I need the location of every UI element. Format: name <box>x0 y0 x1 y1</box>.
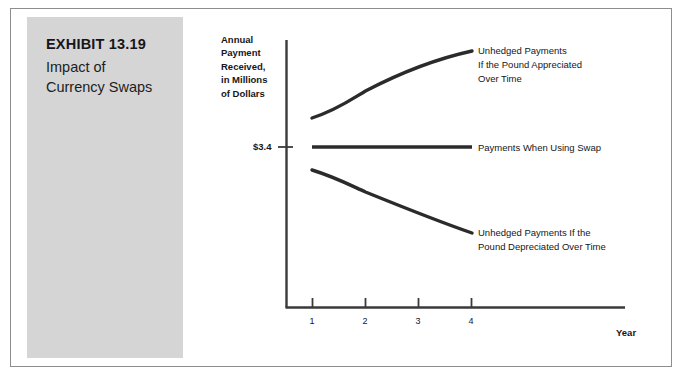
y-axis-title-line-3: Received, <box>221 60 283 73</box>
y-axis-title-line-5: of Dollars <box>221 87 283 100</box>
series-label-swap-line-1: Payments When Using Swap <box>478 141 601 155</box>
x-axis-tick-label-3: 3 <box>410 316 426 326</box>
series-label-appreciated-line-2: If the Pound Appreciated <box>478 58 582 72</box>
y-axis-title-line-2: Payment <box>221 46 283 59</box>
x-axis-title: Year <box>616 327 636 338</box>
y-axis-title-line-4: in Millions <box>221 73 283 86</box>
chart-canvas <box>0 0 697 375</box>
x-axis-tick-label-4: 4 <box>463 316 479 326</box>
y-axis-title-line-1: Annual <box>221 33 283 46</box>
series-label-appreciated: Unhedged Payments If the Pound Appreciat… <box>478 44 582 86</box>
y-axis-tick-label-3-4: $3.4 <box>253 141 272 152</box>
series-label-appreciated-line-1: Unhedged Payments <box>478 44 582 58</box>
series-label-depreciated-line-2: Pound Depreciated Over Time <box>478 240 606 254</box>
series-line-depreciated <box>312 170 472 233</box>
exhibit-figure: EXHIBIT 13.19 Impact of Currency Swaps <box>0 0 697 375</box>
line-chart: Annual Payment Received, in Millions of … <box>0 0 697 375</box>
series-label-swap: Payments When Using Swap <box>478 141 601 155</box>
y-axis-title: Annual Payment Received, in Millions of … <box>221 33 283 100</box>
series-line-appreciated <box>312 51 472 118</box>
x-axis-tick-label-1: 1 <box>304 316 320 326</box>
series-label-depreciated-line-1: Unhedged Payments If the <box>478 226 606 240</box>
x-axis-tick-label-2: 2 <box>357 316 373 326</box>
series-label-depreciated: Unhedged Payments If the Pound Depreciat… <box>478 226 606 254</box>
series-label-appreciated-line-3: Over Time <box>478 72 582 86</box>
